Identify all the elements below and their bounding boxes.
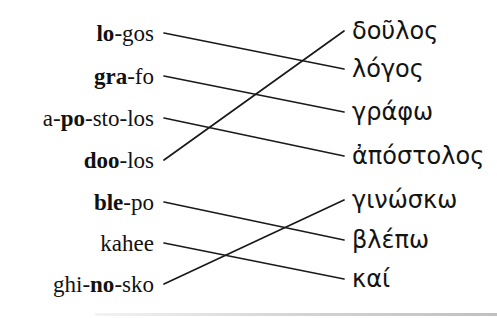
left-item-ghinosko: ghi-no-sko bbox=[0, 273, 154, 296]
stressed-syllable: no bbox=[90, 272, 114, 297]
left-item-doolos: doo-los bbox=[0, 149, 154, 172]
left-item-blepo: ble-po bbox=[0, 191, 154, 214]
right-item-kai: καί bbox=[352, 267, 390, 291]
match-line bbox=[164, 118, 344, 156]
stressed-syllable: po bbox=[61, 106, 85, 131]
right-item-blepo: βλέπω bbox=[352, 228, 429, 252]
left-item-grafo: gra-fo bbox=[0, 65, 154, 88]
stressed-syllable: ble bbox=[94, 190, 123, 215]
syllable: -fo bbox=[127, 64, 154, 89]
stressed-syllable: lo bbox=[96, 21, 114, 46]
right-item-grapho: γράφω bbox=[352, 100, 433, 124]
stressed-syllable: gra bbox=[94, 64, 127, 89]
syllable: -gos bbox=[114, 21, 154, 46]
match-line bbox=[164, 200, 344, 284]
match-line bbox=[164, 243, 344, 279]
syllable: -sto-los bbox=[85, 106, 154, 131]
right-item-ginosko: γινώσκω bbox=[352, 188, 457, 212]
syllable: ghi- bbox=[53, 272, 90, 297]
left-item-apostolos: a-po-sto-los bbox=[0, 107, 154, 130]
syllable: -los bbox=[120, 148, 155, 173]
syllable: -sko bbox=[114, 272, 154, 297]
right-item-logos: λόγος bbox=[352, 57, 424, 81]
syllable: kahee bbox=[100, 231, 154, 256]
right-item-doulos: δοῦλος bbox=[352, 19, 438, 43]
left-item-logos: lo-gos bbox=[0, 22, 154, 45]
stressed-syllable: doo bbox=[84, 148, 120, 173]
matching-exercise-page: lo-gos gra-fo a-po-sto-los doo-los ble-p… bbox=[0, 0, 497, 318]
right-item-apostolos: ἀπόστολος bbox=[352, 144, 484, 168]
match-line bbox=[164, 202, 344, 240]
match-line bbox=[164, 76, 344, 112]
left-item-kahee: kahee bbox=[0, 232, 154, 255]
page-edge-shadow bbox=[95, 313, 497, 316]
syllable: a- bbox=[43, 106, 61, 131]
syllable: -po bbox=[123, 190, 154, 215]
